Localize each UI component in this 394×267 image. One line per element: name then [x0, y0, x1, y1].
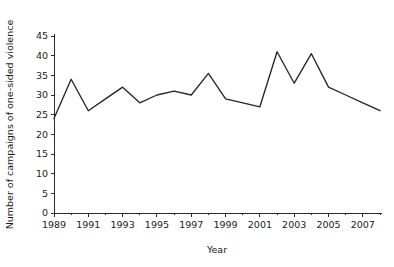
y-axis-tick-label: 0: [42, 207, 48, 218]
y-axis-tick-label: 10: [36, 168, 48, 179]
x-axis-tick-label: 2001: [248, 219, 272, 230]
x-axis-tick-label: 1989: [42, 219, 66, 230]
y-axis-tick-label: 30: [36, 89, 48, 100]
data-series-line: [54, 52, 380, 119]
y-axis-tick-label: 15: [36, 148, 48, 159]
y-axis-tick-group: 051015202530354045: [36, 30, 54, 218]
chart-plot-area: 051015202530354045 198919911993199519971…: [0, 0, 394, 267]
line-chart-figure: 051015202530354045 198919911993199519971…: [0, 0, 394, 267]
y-axis-tick-label: 25: [36, 109, 48, 120]
y-axis-title: Number of campaigns of one-sided violenc…: [4, 20, 15, 230]
x-axis-tick-label: 1995: [145, 219, 169, 230]
x-axis-tick-label: 2005: [316, 219, 340, 230]
y-axis-tick-label: 20: [36, 129, 48, 140]
y-axis-tick-label: 45: [36, 30, 48, 41]
x-axis-tick-label: 1991: [76, 219, 100, 230]
y-axis-tick-label: 5: [42, 188, 48, 199]
x-axis-tick-label: 1993: [111, 219, 135, 230]
x-axis-tick-label: 1997: [179, 219, 203, 230]
x-axis-tick-label: 2007: [351, 219, 375, 230]
x-axis-tick-label: 2003: [282, 219, 306, 230]
y-axis-tick-label: 40: [36, 50, 48, 61]
y-axis-tick-label: 35: [36, 70, 48, 81]
x-axis-tick-group: 1989199119931995199719992001200320052007: [42, 213, 380, 230]
x-axis-title: Year: [206, 244, 227, 255]
x-axis-tick-label: 1999: [213, 219, 237, 230]
